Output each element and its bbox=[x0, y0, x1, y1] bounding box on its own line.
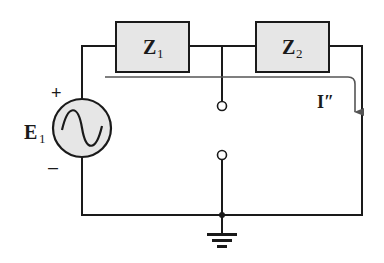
impedance-z2: Z 2 bbox=[256, 22, 329, 72]
z1-subscript: 1 bbox=[157, 46, 164, 61]
source-subscript: 1 bbox=[39, 131, 46, 146]
circuit-diagram: Z 1 Z 2 + – E 1 I″ bbox=[0, 0, 384, 263]
ground-icon bbox=[207, 233, 237, 248]
wire-left-top bbox=[82, 46, 116, 99]
z2-label: Z bbox=[282, 36, 295, 58]
current-label: I″ bbox=[317, 92, 334, 112]
polarity-plus: + bbox=[51, 83, 62, 103]
source-label: E bbox=[24, 121, 37, 143]
wires bbox=[82, 46, 362, 233]
ac-source-icon bbox=[53, 99, 111, 157]
impedance-z1: Z 1 bbox=[116, 22, 189, 72]
z1-label: Z bbox=[143, 36, 156, 58]
terminal-lower bbox=[218, 151, 227, 160]
z2-subscript: 2 bbox=[296, 46, 303, 61]
junction-dot bbox=[219, 212, 225, 218]
terminal-upper bbox=[218, 102, 227, 111]
polarity-minus: – bbox=[48, 157, 58, 177]
